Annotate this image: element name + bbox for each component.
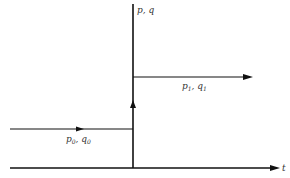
pq-axis-label: p, q xyxy=(137,5,154,15)
upper-state-label: p1, q1 xyxy=(182,81,207,92)
lower-state-arrow-icon xyxy=(76,127,84,132)
t-axis-label: t xyxy=(282,163,286,173)
step-diagram: t p, q p0, q0 p1, q1 xyxy=(0,0,290,178)
upper-state-arrow-icon xyxy=(243,74,253,80)
lower-state-label: p0, q0 xyxy=(66,134,91,145)
pq-axis-arrow-icon xyxy=(130,100,136,108)
t-axis-arrow-icon xyxy=(270,165,280,171)
